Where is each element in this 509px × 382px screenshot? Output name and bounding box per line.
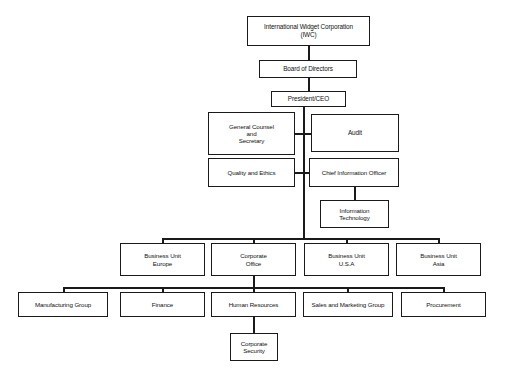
- node-label-corporate-security: Corporate Security: [241, 340, 268, 355]
- node-label-finance: Finance: [152, 301, 173, 308]
- connector-cio-to-it: [354, 187, 356, 200]
- node-corporation[interactable]: International Widget Corporation (IWC): [247, 16, 370, 46]
- node-board[interactable]: Board of Directors: [259, 60, 357, 78]
- node-label-president: President/CEO: [288, 95, 329, 103]
- connector-spine-to-general-counsel: [295, 133, 303, 135]
- node-bu-europe[interactable]: Business Unit Europe: [120, 243, 205, 276]
- node-general-counsel[interactable]: General Counsel and Secretary: [208, 112, 295, 155]
- connector-corporate-office-drop: [253, 276, 255, 287]
- node-corporate-security[interactable]: Corporate Security: [230, 333, 278, 361]
- connector-spine-to-audit: [303, 133, 311, 135]
- node-label-bu-europe: Business Unit Europe: [144, 252, 181, 267]
- node-label-manufacturing-group: Manufacturing Group: [35, 301, 91, 308]
- node-president[interactable]: President/CEO: [271, 91, 346, 107]
- node-label-cio: Chief Information Officer: [322, 169, 386, 176]
- node-label-bu-asia: Business Unit Asia: [420, 252, 457, 267]
- node-manufacturing-group[interactable]: Manufacturing Group: [18, 292, 108, 317]
- node-label-audit: Audit: [348, 129, 362, 137]
- node-label-corporate-office: Corporate Office: [240, 252, 267, 267]
- node-audit[interactable]: Audit: [311, 114, 399, 152]
- node-label-quality-ethics: Quality and Ethics: [227, 169, 275, 176]
- node-label-human-resources: Human Resources: [229, 301, 279, 308]
- node-procurement[interactable]: Procurement: [401, 292, 486, 317]
- connector-board-to-president: [308, 78, 310, 91]
- node-bu-asia[interactable]: Business Unit Asia: [396, 243, 481, 276]
- connector-hr-to-corporate-security: [253, 317, 255, 333]
- connector-corporation-to-board: [308, 46, 310, 60]
- node-label-corporation: International Widget Corporation (IWC): [264, 23, 353, 38]
- node-label-sales-marketing-group: Sales and Marketing Group: [312, 301, 385, 308]
- node-cio[interactable]: Chief Information Officer: [309, 158, 399, 187]
- node-quality-ethics[interactable]: Quality and Ethics: [208, 158, 295, 187]
- node-label-procurement: Procurement: [426, 301, 460, 308]
- org-chart: International Widget Corporation (IWC)Bo…: [0, 0, 509, 382]
- node-information-technology[interactable]: Information Technology: [320, 200, 389, 228]
- node-label-bu-usa: Business Unit U.S.A: [328, 252, 365, 267]
- node-sales-marketing-group[interactable]: Sales and Marketing Group: [303, 292, 393, 317]
- node-bu-usa[interactable]: Business Unit U.S.A: [304, 243, 389, 276]
- connector-business-unit-bus: [162, 238, 439, 240]
- node-label-information-technology: Information Technology: [339, 207, 369, 222]
- connector-spine-to-quality-ethics: [295, 172, 303, 174]
- node-label-general-counsel: General Counsel and Secretary: [229, 123, 274, 145]
- node-finance[interactable]: Finance: [120, 292, 205, 317]
- node-human-resources[interactable]: Human Resources: [211, 292, 296, 317]
- node-corporate-office[interactable]: Corporate Office: [211, 243, 296, 276]
- node-label-board: Board of Directors: [283, 65, 333, 73]
